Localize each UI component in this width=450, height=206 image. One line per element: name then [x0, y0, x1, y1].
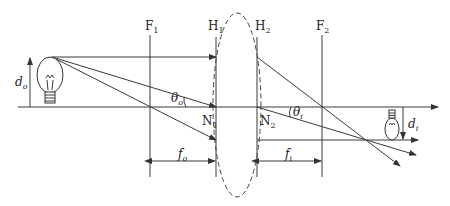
ray-chief-in [52, 57, 216, 107]
ray-focal-in [52, 57, 216, 140]
thick-lens-outline [213, 13, 261, 197]
label-f-i: fi [284, 147, 292, 163]
diagram-canvas: F1 H1 H2 F2 N1 N2 do di θo θi fo fi [0, 0, 450, 206]
thick-lens-diagram: F1 H1 H2 F2 N1 N2 do di θo θi fo fi [0, 0, 450, 206]
ray-parallel-out [257, 57, 400, 166]
angle-arc-theta-i [290, 107, 291, 117]
object-bulb-icon [37, 57, 63, 103]
label-h2: H2 [255, 19, 271, 35]
label-theta-o: θo [171, 91, 183, 107]
angle-arc-theta-o [184, 97, 186, 107]
image-bulb-icon [385, 110, 399, 140]
label-d-o: do [15, 75, 28, 91]
label-n2: N2 [260, 114, 276, 130]
label-h1: H1 [208, 19, 224, 35]
label-f1: F1 [145, 19, 158, 35]
label-d-i: di [408, 117, 419, 133]
label-n1: N1 [202, 114, 218, 130]
label-f-o: fo [177, 147, 187, 163]
label-f2: F2 [316, 19, 329, 35]
